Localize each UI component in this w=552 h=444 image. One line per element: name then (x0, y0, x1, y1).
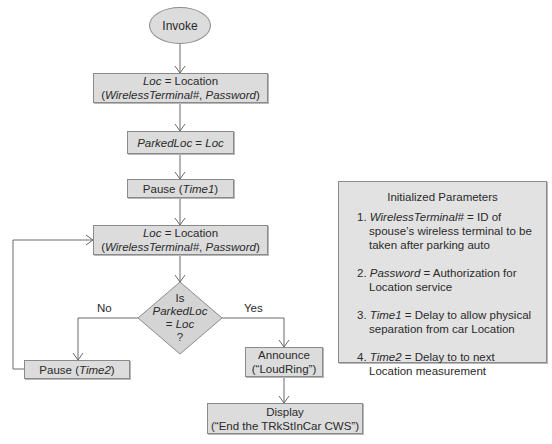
step-set-parkedloc-text: ParkedLoc = Loc (128, 136, 233, 150)
var-time1: Time1 (182, 183, 214, 195)
var: Time2 (370, 351, 402, 363)
param-item: 1. WirelessTerminal# = ID of spouse’s wi… (351, 210, 546, 252)
num: 2. (357, 267, 370, 279)
step-get-location-line1: Loc = Location (94, 74, 267, 88)
step-pause-time2: Pause (Time2) (24, 360, 130, 379)
step-set-parkedloc: ParkedLoc = Loc (127, 131, 234, 154)
display-line2: (“End the TRkStInCar CWS”) (208, 419, 362, 433)
text: ) (214, 183, 218, 195)
num: 3. (357, 309, 370, 321)
text: = Location (161, 75, 218, 87)
announce-line2: (“LoudRing”) (246, 362, 322, 376)
arrow-no-branch (78, 318, 138, 360)
step-announce: Announce (“LoudRing”) (245, 347, 323, 377)
param-item: 3. Time1 = Delay to allow physical separ… (351, 308, 546, 336)
num: 1. (357, 211, 370, 223)
text: ) (256, 89, 260, 101)
var-loc: Loc (176, 318, 195, 330)
decision-line1: Is (140, 292, 220, 305)
step-get-location-again: Loc = Location (WirelessTerminal#, Passw… (93, 225, 268, 255)
line1: Loc = Location (94, 226, 267, 240)
decision-line2: ParkedLoc (140, 305, 220, 318)
var-wireless-terminal: WirelessTerminal# (105, 241, 199, 253)
step-get-location: Loc = Location (WirelessTerminal#, Passw… (93, 73, 268, 103)
var-parkedloc: ParkedLoc (137, 137, 192, 149)
text: ) (111, 364, 115, 376)
text: = (192, 137, 205, 149)
display-line1: Display (208, 405, 362, 419)
step-pause-time2-text: Pause (Time2) (25, 363, 129, 377)
text: Pause ( (39, 364, 79, 376)
step-get-location-line2: (WirelessTerminal#, Password) (94, 88, 267, 102)
start-label: Invoke (162, 19, 197, 33)
var-loc: Loc (143, 227, 162, 239)
decision-line4: ? (140, 331, 220, 344)
announce-line1: Announce (246, 348, 322, 362)
text: ) (256, 241, 260, 253)
var-password: Password (205, 241, 256, 253)
var-time2: Time2 (79, 364, 111, 376)
text: Pause ( (143, 183, 183, 195)
var-password: Password (205, 89, 256, 101)
arrow-yes-branch (222, 318, 284, 347)
var: Password (370, 267, 421, 279)
start-invoke: Invoke (149, 7, 211, 44)
params-title: Initialized Parameters (339, 190, 546, 204)
no-label: No (97, 302, 112, 314)
step-pause-time1-text: Pause (Time1) (128, 182, 233, 196)
var-loc: Loc (205, 137, 224, 149)
text: = Location (161, 227, 218, 239)
param-item: 2. Password = Authorization for Location… (351, 266, 546, 294)
step-pause-time1: Pause (Time1) (127, 179, 234, 198)
step-display: Display (“End the TRkStInCar CWS”) (207, 403, 363, 434)
var-loc: Loc (143, 75, 162, 87)
arrow-loop-back (13, 240, 93, 369)
line2: (WirelessTerminal#, Password) (94, 240, 267, 254)
param-item: 4. Time2 = Delay to to next Location mea… (351, 350, 546, 378)
num: 4. (357, 351, 370, 363)
initialized-parameters-panel: Initialized Parameters 1. WirelessTermin… (338, 181, 547, 363)
var: Time1 (370, 309, 402, 321)
decision-line3: = Loc (140, 318, 220, 331)
text: = (166, 318, 176, 330)
var: WirelessTerminal# (370, 211, 464, 223)
var-wireless-terminal: WirelessTerminal# (105, 89, 199, 101)
yes-label: Yes (244, 302, 263, 314)
var-parkedloc: ParkedLoc (153, 305, 208, 317)
decision-text: Is ParkedLoc = Loc ? (140, 292, 220, 344)
